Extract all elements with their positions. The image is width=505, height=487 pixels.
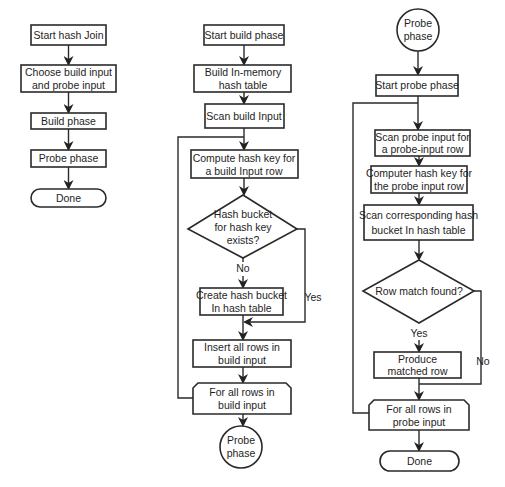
node-label: Probe [404,17,432,29]
node-label: bucket In hash table [372,224,466,236]
node-start-probe-phase: Start probe phase [375,75,459,96]
node-choose-inputs: Choose build input and probe input [21,65,116,92]
connector-probe-phase-start: Probe phase [397,9,439,51]
node-label: Build In-memory [205,66,282,78]
node-label: for hash key [214,221,272,233]
node-label: exists? [227,234,260,246]
edge-label-yes: Yes [304,291,321,303]
flow-build-phase: Start build phase Build In-memory hash t… [178,25,322,468]
node-loop-probe-rows: For all rows in probe input [369,400,469,430]
node-label: Choose build input [25,66,112,78]
node-start-hash-join: Start hash Join [31,25,106,45]
node-compute-hash-key: Compute hash key for a build Input row [191,150,298,178]
connector-probe-phase: Probe phase [220,426,262,468]
node-label: matched row [387,365,448,377]
node-label: Row match found? [375,285,463,297]
node-label: Start hash Join [33,29,103,41]
flow-probe-phase: Probe phase Start probe phase Scan probe… [353,9,490,471]
node-label: a build Input row [205,165,282,177]
node-label: Compute hash key for [193,152,296,164]
edge-label-no: No [476,355,490,367]
node-done-probe: Done [380,451,459,471]
node-label: probe input [393,416,446,428]
node-start-build-phase: Start build phase [204,25,284,45]
node-label: phase [404,30,433,42]
node-label: In hash table [211,302,271,314]
node-label: Build phase [41,115,96,127]
node-create-hash-bucket: Create hash bucket In hash table [196,288,287,315]
node-compute-probe-key: Computer hash key for the probe input ro… [366,166,473,193]
node-scan-hash-bucket: Scan corresponding hash bucket In hash t… [359,205,478,240]
node-label: Scan corresponding hash [359,209,478,221]
decision-bucket-exists: Hash bucket for hash key exists? [188,195,297,258]
edge-label-no: No [236,262,250,274]
node-label: a probe-input row [382,143,464,155]
node-label: Probe [227,434,255,446]
node-build-hash-table: Build In-memory hash table [194,65,291,92]
decision-row-match: Row match found? [363,260,474,323]
node-label: Start build phase [205,29,284,41]
node-label: For all rows in [209,386,275,398]
node-label: the probe input row [374,180,464,192]
node-label: Probe phase [39,152,99,164]
node-scan-build-input: Scan build Input [205,104,284,128]
hash-join-flowchart: Start hash Join Choose build input and p… [0,0,505,487]
node-label: phase [227,447,256,459]
node-label: Done [407,455,432,467]
edge-label-yes: Yes [410,327,427,339]
node-label: Start probe phase [375,79,459,91]
node-label: Create hash bucket [196,289,287,301]
node-label: Scan build Input [206,110,281,122]
node-produce-matched-row: Produce matched row [374,352,461,378]
node-label: and probe input [32,79,105,91]
node-label: For all rows in [386,403,452,415]
node-label: Insert all rows in [204,341,280,353]
node-label: Scan probe input for [375,131,470,143]
node-label: Hash bucket [214,208,272,220]
node-build-phase: Build phase [31,113,106,129]
node-insert-rows: Insert all rows in build input [193,340,291,367]
node-label: Done [56,192,81,204]
node-probe-phase: Probe phase [31,150,106,167]
node-label: Computer hash key for [366,167,473,179]
node-label: Produce [398,353,437,365]
node-done: Done [31,189,106,207]
node-scan-probe-input: Scan probe input for a probe-input row [375,130,470,156]
flow-hash-join-overview: Start hash Join Choose build input and p… [21,25,116,207]
node-label: hash table [219,79,268,91]
node-loop-build-rows: For all rows in build input [193,383,291,414]
node-label: build input [218,399,266,411]
node-label: build input [218,354,266,366]
